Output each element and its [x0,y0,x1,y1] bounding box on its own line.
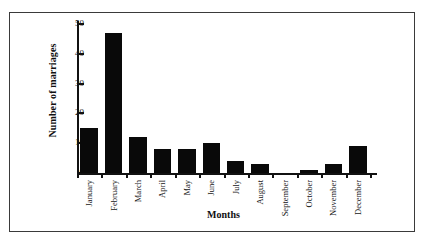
x-tick-mark [321,173,323,178]
x-tick-mark [272,173,274,178]
bar-october [300,170,318,173]
x-axis-label-text: November [328,180,338,216]
x-axis-label-text: December [353,180,363,215]
x-axis-label-text: May [182,180,192,196]
bar-series [77,24,370,173]
x-tick-mark [150,173,152,178]
x-tick-mark [101,173,103,178]
x-tick-mark [346,173,348,178]
bar-august [251,164,269,173]
x-axis-label-text: February [109,180,119,211]
bar-december [349,146,367,173]
x-axis-label-january: January [82,180,96,226]
x-tick-mark [248,173,250,178]
x-axis-line [77,173,377,175]
bar-april [154,149,172,173]
x-axis-label-march: March [131,180,145,226]
x-axis-label-may: May [180,180,194,226]
bar-march [129,137,147,173]
x-axis-label-text: June [206,180,216,196]
y-axis-title-text: Number of marriages [48,43,59,137]
x-axis-label-text: March [133,180,143,202]
x-axis-label-text: September [280,180,290,216]
y-axis-title: Number of marriages [46,28,60,152]
x-axis-label-text: October [304,180,314,207]
x-axis-label-july: July [229,180,243,226]
x-axis-label-november: November [326,180,340,226]
x-axis-label-text: August [255,180,265,205]
x-tick-mark [77,173,79,178]
x-axis-label-october: October [302,180,316,226]
x-axis-label-text: January [84,180,94,206]
x-axis-label-april: April [155,180,169,226]
x-axis-label-december: December [351,180,365,226]
x-tick-mark [224,173,226,178]
bar-july [227,161,245,173]
x-tick-mark [175,173,177,178]
bar-june [203,143,221,173]
x-axis-label-september: September [278,180,292,226]
bar-november [325,164,343,173]
bar-january [80,128,98,173]
x-axis-label-text: July [231,180,241,194]
bar-february [105,33,123,173]
x-axis-label-august: August [253,180,267,226]
x-tick-mark [126,173,128,178]
x-axis-label-february: February [107,180,121,226]
chart-figure: 01020304050 Number of marriages Months J… [0,0,431,243]
bar-may [178,149,196,173]
x-tick-mark [199,173,201,178]
x-tick-mark [370,173,372,178]
x-axis-label-text: April [157,180,167,198]
x-tick-mark [297,173,299,178]
x-axis-label-june: June [204,180,218,226]
